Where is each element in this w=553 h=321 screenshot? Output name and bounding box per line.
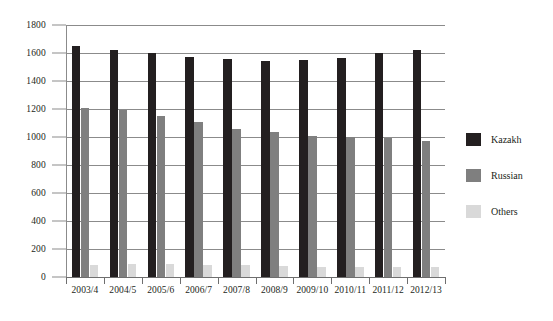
y-axis-tick <box>52 53 66 54</box>
y-axis-tick <box>52 109 66 110</box>
bar-russian <box>157 116 166 277</box>
chart-legend: KazakhRussianOthers <box>466 133 550 241</box>
bar-group <box>148 25 175 277</box>
bar-russian <box>346 137 355 277</box>
bar-kazakh <box>299 60 308 277</box>
bar-russian <box>81 108 90 277</box>
y-axis-tick <box>52 277 66 278</box>
bar-group <box>110 25 137 277</box>
bar-kazakh <box>223 59 232 277</box>
x-axis-label: 2003/4 <box>71 285 98 295</box>
x-axis-label: 2004/5 <box>109 285 136 295</box>
bar-russian <box>232 129 241 277</box>
bar-others <box>317 267 326 277</box>
x-axis-label: 2007/8 <box>223 285 250 295</box>
bar-others <box>203 265 212 277</box>
y-axis-label: 200 <box>31 244 46 254</box>
bar-others <box>90 265 99 277</box>
y-axis-label: 600 <box>31 188 46 198</box>
legend-item: Kazakh <box>466 133 550 146</box>
y-axis-label: 0 <box>41 272 46 282</box>
legend-item: Others <box>466 205 550 218</box>
y-axis-label: 1000 <box>26 132 46 142</box>
bar-others <box>431 267 440 277</box>
bar-group <box>185 25 212 277</box>
bar-russian <box>270 132 279 277</box>
bar-kazakh <box>110 50 119 277</box>
legend-swatch-others <box>466 205 481 218</box>
y-axis-label: 1600 <box>26 48 46 58</box>
bar-russian <box>308 136 317 277</box>
bar-others <box>241 265 250 277</box>
bar-group <box>299 25 326 277</box>
bar-others <box>166 264 175 277</box>
y-axis-label: 800 <box>31 160 46 170</box>
y-axis-tick <box>52 25 66 26</box>
legend-swatch-kazakh <box>466 133 481 146</box>
y-axis-tick <box>52 221 66 222</box>
legend-label: Kazakh <box>491 134 522 145</box>
bar-group <box>72 25 99 277</box>
x-axis-label: 2011/12 <box>372 285 404 295</box>
bar-russian <box>422 141 431 278</box>
x-axis-tick <box>218 277 219 284</box>
y-axis-label: 400 <box>31 216 46 226</box>
legend-label: Others <box>491 206 518 217</box>
x-axis-label: 2006/7 <box>185 285 212 295</box>
bar-russian <box>194 122 203 277</box>
y-axis-tick <box>52 137 66 138</box>
bar-kazakh <box>413 50 422 278</box>
legend-swatch-russian <box>466 169 481 182</box>
x-axis-tick <box>407 277 408 284</box>
bar-group <box>261 25 288 277</box>
legend-item: Russian <box>466 169 550 182</box>
x-axis-tick <box>331 277 332 284</box>
y-axis-tick <box>52 249 66 250</box>
x-axis-label: 2005/6 <box>147 285 174 295</box>
bar-others <box>128 264 137 277</box>
x-axis-tick <box>293 277 294 284</box>
y-axis-label: 1800 <box>26 20 46 30</box>
bar-russian <box>119 110 128 277</box>
x-axis-tick <box>142 277 143 284</box>
y-axis-tick <box>52 81 66 82</box>
bar-kazakh <box>337 58 346 277</box>
bar-kazakh <box>72 46 81 277</box>
x-axis-label: 2009/10 <box>296 285 328 295</box>
bar-kazakh <box>375 53 384 277</box>
x-axis-label: 2010/11 <box>335 285 367 295</box>
y-axis: 020040060080010001200140016001800 <box>0 0 66 321</box>
plot-area <box>66 25 445 277</box>
bar-chart: 020040060080010001200140016001800 2003/4… <box>0 0 553 321</box>
bar-kazakh <box>261 61 270 277</box>
y-axis-tick <box>52 165 66 166</box>
bar-kazakh <box>185 57 194 277</box>
bars-layer <box>66 25 445 277</box>
bar-group <box>375 25 402 277</box>
x-axis-tick <box>445 277 446 284</box>
x-axis-tick <box>369 277 370 284</box>
y-axis-label: 1200 <box>26 104 46 114</box>
x-axis-tick <box>256 277 257 284</box>
bar-russian <box>384 138 393 277</box>
y-axis-label: 1400 <box>26 76 46 86</box>
y-axis-tick <box>52 193 66 194</box>
bar-group <box>337 25 364 277</box>
x-axis-tick <box>66 277 67 284</box>
x-axis-label: 2008/9 <box>261 285 288 295</box>
x-axis-tick <box>180 277 181 284</box>
bar-group <box>223 25 250 277</box>
x-axis-tick <box>104 277 105 284</box>
legend-label: Russian <box>491 170 523 181</box>
bar-others <box>355 267 364 277</box>
bar-group <box>413 25 440 277</box>
bar-kazakh <box>148 53 157 277</box>
x-axis-label: 2012/13 <box>410 285 442 295</box>
bar-others <box>279 266 288 277</box>
bar-others <box>393 267 402 278</box>
